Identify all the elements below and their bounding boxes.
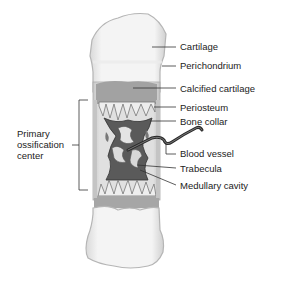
- label-line-ossification: ossification: [17, 139, 64, 150]
- label-calcified-cartilage: Calcified cartilage: [180, 83, 255, 94]
- label-perichondrium: Perichondrium: [180, 60, 241, 71]
- upper-calcified-cartilage: [96, 81, 157, 104]
- label-medullary-cavity: Medullary cavity: [180, 180, 248, 191]
- bottom-cartilage: [86, 206, 164, 268]
- ossification-diagram: Cartilage Perichondrium Calcified cartil…: [0, 0, 286, 283]
- top-cartilage: [90, 14, 166, 93]
- label-primary-ossification-center: Primary ossification center: [17, 128, 64, 161]
- label-blood-vessel: Blood vessel: [180, 148, 234, 159]
- label-bone-collar: Bone collar: [180, 116, 228, 127]
- label-line-primary: Primary: [17, 128, 64, 139]
- bone-collar-right: [156, 100, 160, 198]
- bone-collar-left: [93, 100, 97, 198]
- label-cartilage: Cartilage: [180, 41, 218, 52]
- label-line-center: center: [17, 150, 64, 161]
- label-periosteum: Periosteum: [180, 102, 228, 113]
- label-trabecula: Trabecula: [180, 163, 222, 174]
